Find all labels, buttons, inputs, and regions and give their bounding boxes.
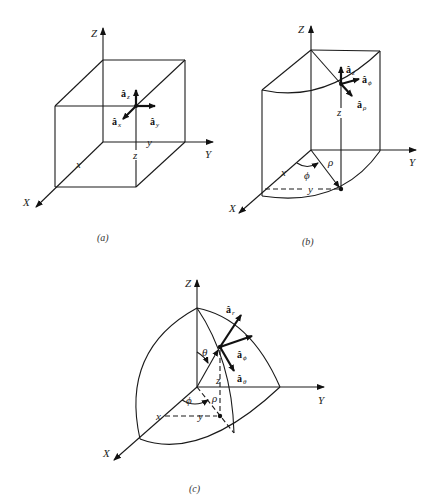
y-coord-label: y xyxy=(197,410,203,422)
y-coord-label: y xyxy=(307,183,313,195)
svg-text:y: y xyxy=(155,121,160,129)
svg-text:θ: θ xyxy=(243,378,247,386)
x-coord-label: x xyxy=(75,158,81,170)
coordinate-systems-figure: Z Y X y x z â z â x â y (a) xyxy=(0,0,431,504)
rho-label: ρ xyxy=(211,392,217,404)
panel-a-rectangular: Z Y X y x z â z â x â y (a) xyxy=(22,27,213,244)
panel-b-cylindrical: Z Y X x y z ϕ ρ â z â ϕ â ρ (b) xyxy=(228,23,417,248)
phi-label: ϕ xyxy=(304,169,310,181)
x-axis-label: X xyxy=(228,202,237,214)
aphi-label: â ϕ xyxy=(237,349,247,362)
caption-b: (b) xyxy=(302,236,314,248)
y-axis-label: Y xyxy=(318,394,326,406)
svg-text:ρ: ρ xyxy=(362,104,367,112)
z-axis-label: Z xyxy=(91,27,98,39)
svg-text:â: â xyxy=(121,88,126,99)
svg-text:x: x xyxy=(117,121,122,129)
atheta-label: â θ xyxy=(237,373,247,386)
z-coord-label: z xyxy=(215,374,221,386)
arho-label: â ρ xyxy=(357,99,367,112)
svg-text:ϕ: ϕ xyxy=(368,79,372,87)
svg-text:â: â xyxy=(362,74,367,85)
aphi-label: â ϕ xyxy=(362,74,372,87)
svg-text:â: â xyxy=(112,116,117,127)
svg-text:â: â xyxy=(150,116,155,127)
svg-text:â: â xyxy=(237,373,242,384)
theta-label: θ xyxy=(202,346,208,358)
cylinder-wedge xyxy=(262,50,380,198)
y-coord-label: y xyxy=(146,136,152,148)
x-axis xyxy=(36,142,103,207)
z-axis-label: Z xyxy=(298,23,305,35)
ar-label: â r xyxy=(226,304,235,317)
svg-text:â: â xyxy=(357,99,362,110)
sphere-octant xyxy=(136,308,280,444)
panel-c-spherical: Z Y X x y z ϕ ρ θ â r â ϕ â θ (c) xyxy=(102,277,326,495)
svg-text:z: z xyxy=(351,69,355,77)
ay-label: â y xyxy=(150,116,160,129)
svg-text:ϕ: ϕ xyxy=(243,354,247,362)
x-axis xyxy=(114,387,197,460)
x-axis-label: X xyxy=(102,447,111,459)
z-axis-label: Z xyxy=(185,277,192,289)
x-coord-label: x xyxy=(155,410,161,422)
caption-a: (a) xyxy=(97,232,109,244)
az-label: â z xyxy=(121,88,130,101)
svg-text:r: r xyxy=(232,309,235,317)
y-axis-label: Y xyxy=(409,156,417,168)
figure-svg: Z Y X y x z â z â x â y (a) xyxy=(0,0,431,504)
rho-label: ρ xyxy=(327,156,333,168)
az-label: â z xyxy=(346,64,355,77)
y-axis-label: Y xyxy=(205,148,213,160)
caption-c: (c) xyxy=(189,483,201,495)
svg-text:â: â xyxy=(226,304,231,315)
z-coord-label: z xyxy=(336,106,342,118)
svg-text:z: z xyxy=(126,93,130,101)
x-axis-label: X xyxy=(22,196,31,208)
ax-label: â x xyxy=(112,116,122,129)
x-coord-label: x xyxy=(280,166,286,178)
x-axis xyxy=(239,150,311,213)
svg-text:â: â xyxy=(346,64,351,75)
phi-label: ϕ xyxy=(186,394,192,406)
svg-text:â: â xyxy=(237,349,242,360)
z-coord-label: z xyxy=(132,149,138,161)
